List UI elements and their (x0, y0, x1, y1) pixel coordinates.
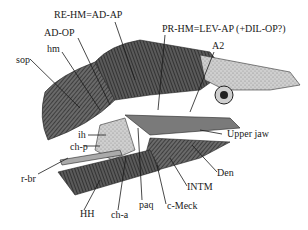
label-paq: paq (139, 200, 153, 210)
label-ch-a: ch-a (111, 210, 128, 220)
label-intm: INTM (187, 182, 213, 192)
label-a2: A2 (212, 41, 224, 51)
label-hm: hm (47, 44, 60, 54)
upper-jaw (125, 115, 240, 135)
label-den: Den (217, 168, 234, 178)
label-c-meck: c-Meck (167, 201, 198, 211)
label-upper-jaw: Upper jaw (227, 129, 269, 139)
label-ch-p: ch-p (70, 142, 88, 152)
snout-bones (200, 55, 300, 90)
label-re-hm: RE-HM=AD-AP (54, 10, 122, 20)
label-sop: sop (16, 55, 30, 65)
label-ih: ih (78, 130, 86, 140)
label-r-br: r-br (21, 174, 36, 184)
label-hh: HH (80, 209, 94, 219)
label-ad-op: AD-OP (44, 28, 75, 38)
label-pr-hm: PR-HM=LEV-AP (+DIL-OP?) (162, 24, 286, 34)
